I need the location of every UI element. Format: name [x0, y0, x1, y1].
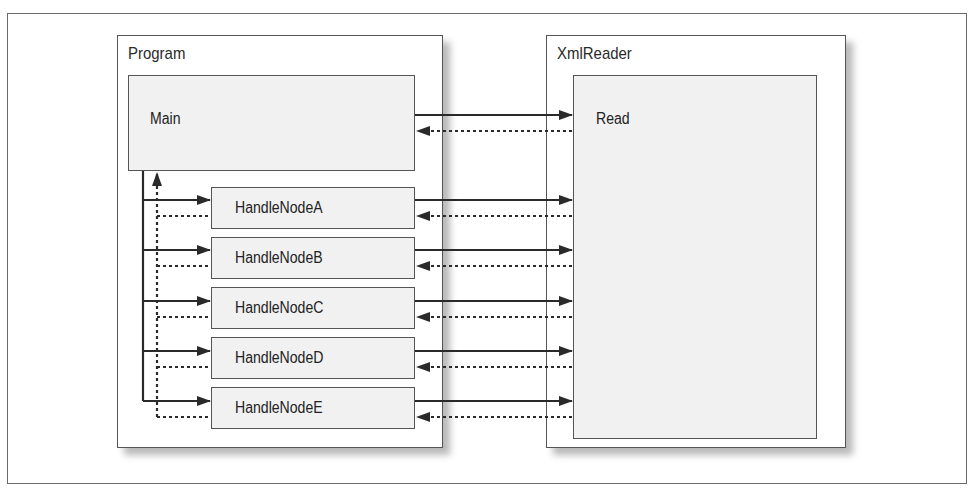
connector-layer — [0, 0, 975, 493]
